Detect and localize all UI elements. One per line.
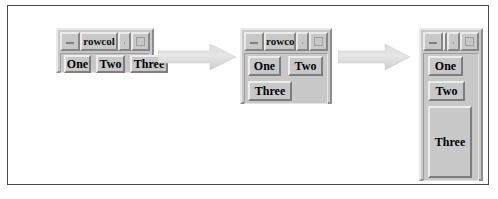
- figure-frame: rowcol One Two Three: [7, 5, 489, 185]
- button-one[interactable]: One: [428, 56, 463, 76]
- minimize-button[interactable]: [244, 32, 264, 51]
- window-title: rowcol: [80, 32, 118, 51]
- button-two[interactable]: Two: [288, 56, 323, 76]
- window-inner: row One Two Three: [423, 32, 479, 177]
- restore-button[interactable]: [447, 32, 460, 51]
- minimize-button[interactable]: [60, 32, 80, 51]
- maximize-button[interactable]: [309, 32, 328, 51]
- window-inner: rowco One Two Three: [244, 32, 328, 100]
- maximize-button[interactable]: [131, 32, 150, 51]
- titlebar[interactable]: row: [423, 32, 479, 51]
- maximize-button[interactable]: [460, 32, 479, 51]
- client-area: One Two Three: [60, 53, 150, 73]
- client-area: One Two Three: [244, 53, 328, 104]
- button-three[interactable]: Three: [428, 106, 472, 178]
- button-one[interactable]: One: [64, 55, 91, 73]
- minimize-button[interactable]: [423, 32, 443, 51]
- window-rowcol-wide[interactable]: rowcol One Two Three: [56, 28, 154, 73]
- button-two[interactable]: Two: [428, 81, 465, 101]
- window-rowcol-narrow[interactable]: row One Two Three: [419, 28, 483, 181]
- button-one[interactable]: One: [248, 56, 281, 76]
- button-two[interactable]: Two: [96, 55, 125, 73]
- window-rowcol-medium[interactable]: rowco One Two Three: [240, 28, 332, 104]
- window-title: rowco: [264, 32, 296, 51]
- restore-button[interactable]: [296, 32, 309, 51]
- button-three[interactable]: Three: [248, 81, 292, 101]
- restore-button[interactable]: [118, 32, 131, 51]
- titlebar[interactable]: rowcol: [60, 32, 150, 51]
- window-inner: rowcol One Two Three: [60, 32, 150, 69]
- client-area: One Two Three: [423, 53, 479, 181]
- titlebar[interactable]: rowco: [244, 32, 328, 51]
- arrow-2-icon: [338, 44, 410, 70]
- arrow-1-icon: [158, 44, 236, 70]
